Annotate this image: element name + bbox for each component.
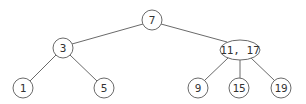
node-label: 19 xyxy=(274,82,287,95)
edge-n1117-n9 xyxy=(205,58,228,80)
tree-node-n15: 15 xyxy=(229,78,249,98)
tree-node-n5: 5 xyxy=(94,78,114,98)
node-label: 9 xyxy=(195,82,202,95)
edge-n3-n1 xyxy=(30,55,56,81)
node-label: 5 xyxy=(101,82,108,95)
edge-n7-n3 xyxy=(72,24,143,44)
tree-node-n3: 3 xyxy=(53,38,73,58)
node-label: 1 xyxy=(20,82,27,95)
tree-node-n9: 9 xyxy=(188,78,208,98)
node-label: 7 xyxy=(149,14,156,27)
edge-n7-n1117 xyxy=(161,24,227,42)
edge-n3-n5 xyxy=(70,55,97,81)
node-label: 15 xyxy=(232,82,245,95)
node-label: 11, 17 xyxy=(220,44,260,57)
tree-node-n1: 1 xyxy=(13,78,33,98)
tree-node-n1117: 11, 17 xyxy=(220,40,260,60)
node-label: 3 xyxy=(60,42,67,55)
edge-n1117-n19 xyxy=(251,58,274,80)
tree-node-n19: 19 xyxy=(271,78,291,98)
tree-nodes: 7311, 171591519 xyxy=(13,10,291,98)
tree-node-n7: 7 xyxy=(142,10,162,30)
tree-diagram: 7311, 171591519 xyxy=(0,0,306,104)
